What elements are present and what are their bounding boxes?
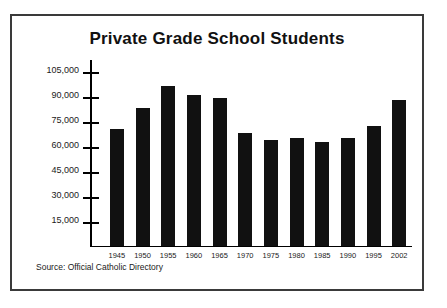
screenshot-root: Private Grade School Students 15,00030,0… [0,0,447,308]
x-axis-tick-label: 1955 [154,251,182,260]
chart-title: Private Grade School Students [12,29,422,49]
y-axis-tick-label: 45,000 [51,165,79,175]
bar [238,133,252,245]
x-axis-tick-label: 1960 [180,251,208,260]
y-axis-tick-mark [83,72,99,74]
bar [110,129,124,245]
y-axis-tick-mark [83,122,99,124]
x-axis-tick-label: 1990 [334,251,362,260]
bar [213,98,227,246]
x-axis-tick-label: 1965 [206,251,234,260]
x-axis-tick-label: 1985 [308,251,336,260]
bar [187,95,201,245]
y-axis-tick-label: 60,000 [51,140,79,150]
y-axis-tick-label: 105,000 [46,65,79,75]
chart-frame: Private Grade School Students 15,00030,0… [10,14,424,291]
bar [367,126,381,246]
bar [341,138,355,245]
bar [161,86,175,246]
y-axis-tick-label: 30,000 [51,190,79,200]
y-axis-line [90,60,92,247]
y-axis-tick-label: 75,000 [51,115,79,125]
bar [290,138,304,245]
bar [315,142,329,245]
x-axis-tick-label: 1970 [231,251,259,260]
x-axis-line [90,246,412,248]
x-axis-tick-label: 1945 [103,251,131,260]
y-axis-tick-mark [83,147,99,149]
x-axis-tick-label: 2002 [385,251,413,260]
bar [392,100,406,245]
y-axis-tick-mark [83,197,99,199]
y-axis-tick-mark [83,172,99,174]
x-axis-tick-label: 1975 [257,251,285,260]
bar [264,140,278,246]
x-axis-tick-label: 1950 [129,251,157,260]
y-axis-tick-label: 90,000 [51,90,79,100]
bar [136,108,150,245]
y-axis-tick-mark [83,222,99,224]
x-axis-tick-label: 1980 [283,251,311,260]
plot-area: 15,00030,00045,00060,00075,00090,000105,… [90,60,412,247]
x-axis-tick-label: 1995 [360,251,388,260]
y-axis-tick-label: 15,000 [51,215,79,225]
source-note: Source: Official Catholic Directory [36,262,163,272]
y-axis-tick-mark [83,97,99,99]
